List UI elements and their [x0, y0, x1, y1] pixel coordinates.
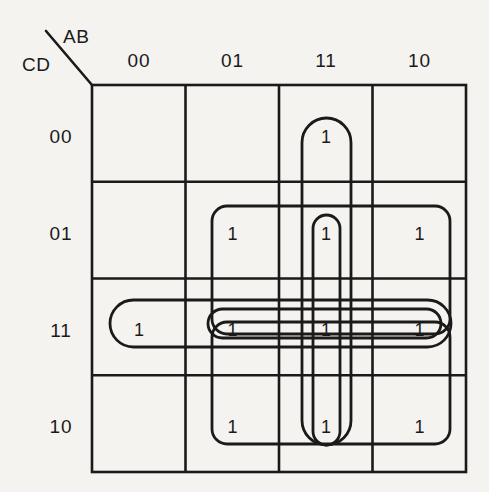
row-header-0: 00 — [38, 126, 84, 148]
kmap-cell-r11-c01: 1 — [186, 320, 280, 341]
kmap-cell-r11-c10: 1 — [373, 320, 467, 341]
kmap-cell-r10-c11: 1 — [279, 417, 373, 438]
group-oval-vertical-col11-all-rows — [302, 118, 351, 445]
row-header-1: 01 — [38, 223, 84, 245]
kmap-cell-r01-c01: 1 — [186, 224, 280, 245]
column-header-2: 11 — [279, 50, 373, 72]
kmap-cell-r00-c11: 1 — [279, 127, 373, 148]
kmap-cell-r01-c11: 1 — [279, 224, 373, 245]
column-header-3: 10 — [373, 50, 467, 72]
kmap-cell-r10-c01: 1 — [186, 417, 280, 438]
column-header-1: 01 — [186, 50, 280, 72]
karnaugh-map-diagram: AB CD 00 01 11 10 00 01 11 10 1 1 1 1 1 … — [0, 0, 489, 492]
row-header-3: 10 — [38, 416, 84, 438]
kmap-cell-r11-c11: 1 — [279, 320, 373, 341]
axis-label-ab: AB — [63, 27, 89, 46]
axis-label-cd: CD — [22, 55, 50, 74]
row-header-2: 11 — [38, 320, 84, 342]
kmap-cell-r01-c10: 1 — [373, 224, 467, 245]
kmap-cell-r10-c10: 1 — [373, 417, 467, 438]
column-header-0: 00 — [92, 50, 186, 72]
kmap-cell-r11-c00: 1 — [92, 320, 186, 341]
